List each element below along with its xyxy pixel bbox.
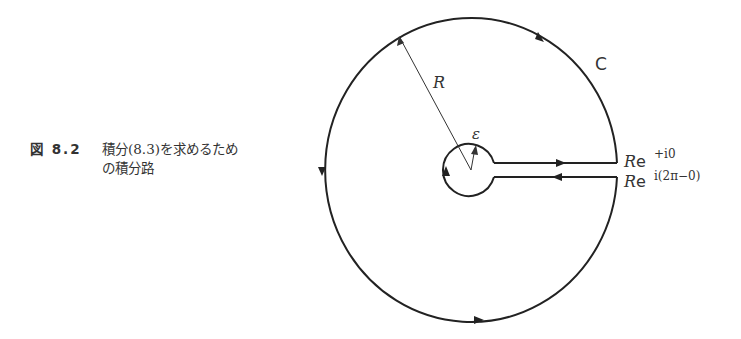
keyhole-contour-diagram: C R ε Re +i0 Re i(2π−0) bbox=[0, 0, 741, 339]
epsilon-label: ε bbox=[472, 125, 480, 143]
radius-label: R bbox=[432, 73, 445, 92]
epsilon-arrowhead-icon bbox=[471, 145, 478, 155]
arrow-lower-slit-icon bbox=[552, 173, 562, 181]
upper-endpoint-exponent: +i0 bbox=[654, 147, 676, 161]
lower-endpoint-exponent: i(2π−0) bbox=[654, 169, 700, 183]
radius-line bbox=[400, 38, 471, 170]
arrow-upper-slit-icon bbox=[556, 159, 566, 167]
lower-endpoint-label: Re bbox=[623, 172, 646, 191]
upper-endpoint-label: Re bbox=[623, 152, 646, 171]
contour-label: C bbox=[595, 54, 607, 74]
inner-circle-arc bbox=[443, 144, 494, 196]
